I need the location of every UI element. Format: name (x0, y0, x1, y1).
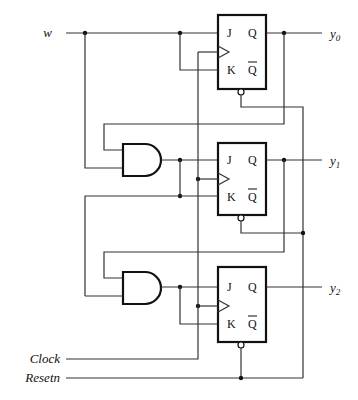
ff1-q-label: Q (248, 153, 257, 167)
ff0-k-label: K (227, 63, 236, 77)
ff1-k-label: K (227, 190, 236, 204)
flip-flop-1 (85, 143, 322, 296)
ff2-j-label: J (227, 280, 232, 294)
output-y1-label: y1 (328, 153, 340, 170)
clock-label: Clock (30, 351, 61, 366)
clock-line (66, 52, 198, 359)
circuit-diagram: J K Q Q y0 J K Q Q y1 (0, 0, 358, 400)
ff2-q-label: Q (248, 280, 257, 294)
ff0-qbar-label: Q (248, 63, 257, 77)
ff2-k-label: K (227, 317, 236, 331)
ff1-j-label: J (227, 153, 232, 167)
ff1-qbar-label: Q (248, 190, 257, 204)
ff2-qbar-label: Q (248, 317, 257, 331)
ff0-q-label: Q (248, 26, 257, 40)
ff0-j-label: J (227, 26, 232, 40)
output-y2-label: y2 (328, 280, 341, 297)
and-gate-1 (123, 144, 218, 198)
input-w-label: w (43, 25, 52, 40)
output-y0-label: y0 (328, 26, 341, 43)
reset-line (66, 376, 303, 380)
reset-label: Resetn (24, 370, 60, 385)
